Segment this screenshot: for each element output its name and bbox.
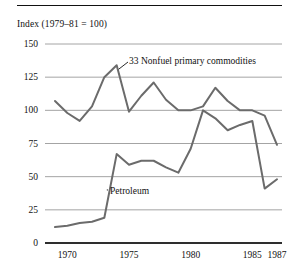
series-lines (55, 65, 277, 227)
x-tick-label: 1987 (268, 250, 287, 260)
y-tick-label: 100 (8, 105, 38, 115)
gridlines (45, 44, 282, 243)
y-tick-label: 25 (8, 205, 38, 215)
series-label-nonfuel: 33 Nonfuel primary commodities (129, 56, 256, 66)
leader-nonfuel (119, 62, 128, 69)
y-tick-label: 125 (8, 72, 38, 82)
y-tick-label: 75 (8, 139, 38, 149)
x-tick-label: 1980 (181, 250, 200, 260)
chart-figure: Index (1979–81 = 100) 0255075100125150 1… (0, 0, 299, 277)
annotation-leader-lines (107, 62, 128, 190)
y-tick-label: 0 (8, 238, 38, 248)
y-tick-label: 150 (8, 39, 38, 49)
y-tick-label: 50 (8, 172, 38, 182)
series-label-petroleum: Petroleum (110, 186, 149, 196)
x-tick-label: 1975 (120, 250, 139, 260)
x-tick-label: 1985 (243, 250, 262, 260)
x-tick-label: 1970 (58, 250, 77, 260)
line-chart-plot (0, 0, 299, 277)
